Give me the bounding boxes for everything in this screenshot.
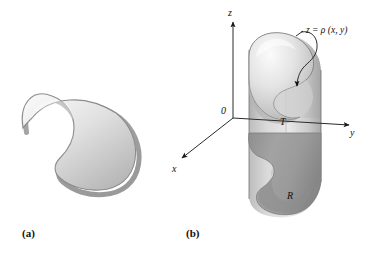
figure-svg: (a) <box>0 0 379 254</box>
surface-equation-leader-tick <box>296 31 303 36</box>
figure-container: (a) <box>0 0 379 254</box>
panel-a-group: (a) <box>22 94 139 240</box>
x-axis <box>182 118 233 158</box>
x-axis-label: x <box>171 163 177 174</box>
panel-b-group: z y x 0 z = ρ (x, y) T R (b) <box>171 7 355 240</box>
z-axis-label: z <box>227 7 232 18</box>
y-axis-label: y <box>349 127 355 138</box>
panel-b-caption: (b) <box>186 227 200 240</box>
region-R-label: R <box>286 190 293 201</box>
surface-equation-label: z = ρ (x, y) <box>305 25 347 36</box>
origin-label: 0 <box>221 105 226 116</box>
panel-a-caption: (a) <box>22 227 35 240</box>
